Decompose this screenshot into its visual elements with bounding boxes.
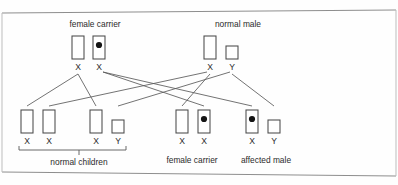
figure-frame-top-border — [2, 10, 396, 13]
mother-x2-to-child4-line — [103, 72, 252, 106]
mother-chromosome-x2-letter: X — [96, 62, 102, 72]
father-y-to-child4-line — [232, 74, 274, 106]
affected-male-child-label: affected male — [241, 155, 291, 165]
child-1-chromosome-x1-letter: X — [24, 136, 30, 146]
child-1-chromosome-x2-letter: X — [46, 136, 52, 146]
text-labels-group: XXfemale carrierXYnormal maleXXXYXXXYnor… — [24, 19, 291, 167]
mother-x1-to-child2-line — [78, 74, 96, 106]
father-y-to-child2-line — [118, 72, 230, 106]
pedigree-figure: XXfemale carrierXYnormal maleXXXYXXXYnor… — [0, 0, 398, 185]
child-3-chromosome-x2-letter: X — [201, 136, 207, 146]
father-chromosome-y2-box — [226, 46, 238, 59]
figure-frame-bottom-border — [2, 172, 396, 176]
child-4-chromosome-x1-mutation-dot — [249, 116, 255, 122]
father-x-to-child3-line — [182, 74, 210, 106]
child-4-chromosome-y2-letter: Y — [271, 136, 277, 146]
child-3-chromosome-x1-letter: X — [179, 136, 185, 146]
child-2-chromosome-y2-box — [112, 120, 124, 133]
child-4-chromosome-x1-letter: X — [249, 136, 255, 146]
inheritance-diagram-svg: XXfemale carrierXYnormal maleXXXYXXXYnor… — [0, 0, 398, 185]
father-chromosome-x1-letter: X — [207, 62, 213, 72]
normal-children-bracket-group — [19, 146, 126, 155]
inheritance-lines-group — [27, 72, 274, 106]
child-2-chromosome-x1-letter: X — [93, 136, 99, 146]
figure-frame — [2, 10, 396, 176]
normal-children-label: normal children — [50, 157, 108, 167]
child-1-chromosome-x1-box — [21, 110, 33, 133]
female-carrier-child-label: female carrier — [166, 155, 217, 165]
mother-chromosome-x1-letter: X — [75, 62, 81, 72]
father-label: normal male — [215, 19, 261, 29]
mother-x2-to-child3-line — [103, 72, 204, 106]
mother-chromosome-x1-box — [72, 36, 84, 59]
father-chromosome-x1-box — [204, 36, 216, 59]
child-3-chromosome-x2-mutation-dot — [201, 116, 207, 122]
father-chromosome-y2-letter: Y — [229, 62, 235, 72]
mother-chromosome-x2-mutation-dot — [96, 42, 102, 48]
mother-label: female carrier — [69, 19, 120, 29]
child-2-chromosome-x1-box — [90, 110, 102, 133]
child-3-chromosome-x1-box — [176, 110, 188, 133]
child-2-chromosome-y2-letter: Y — [115, 136, 121, 146]
child-1-chromosome-x2-box — [43, 110, 55, 133]
child-4-chromosome-y2-box — [268, 120, 280, 133]
